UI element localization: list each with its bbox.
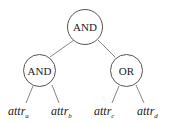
leaf-attr-d: attrd [137, 104, 158, 120]
leaf-sub: d [154, 112, 158, 120]
leaf-base: attr [8, 104, 25, 118]
leaf-sub: c [111, 112, 114, 120]
leaf-attr-a: attra [8, 104, 29, 120]
edge-and-attr-b [52, 85, 59, 103]
leaf-sub: a [25, 112, 29, 120]
and-node: AND [23, 54, 56, 87]
or-node: OR [110, 54, 143, 87]
leaf-base: attr [94, 104, 111, 118]
leaf-attr-b: attrb [51, 104, 72, 120]
root-and-node: AND [67, 9, 103, 45]
edge-or-attr-d [136, 85, 144, 103]
leaf-sub: b [68, 112, 72, 120]
or-label: OR [119, 65, 134, 77]
edge-root-and [50, 40, 74, 57]
leaf-base: attr [137, 104, 154, 118]
and-label: AND [28, 65, 52, 77]
edge-root-or [98, 40, 115, 57]
edge-and-attr-a [26, 86, 33, 103]
leaf-base: attr [51, 104, 68, 118]
leaf-attr-c: attrc [94, 104, 114, 120]
root-and-label: AND [73, 21, 97, 33]
edge-or-attr-c [112, 86, 119, 103]
